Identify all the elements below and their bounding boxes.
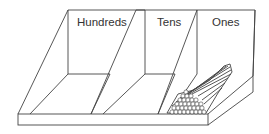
left-inner-edge [30,74,68,114]
bundle-of-sticks [167,64,232,114]
place-value-tray-diagram: Hundreds Tens Ones [0,0,269,134]
label-hundreds: Hundreds [77,16,127,28]
front-lip [18,114,208,125]
label-tens: Tens [157,16,182,28]
label-ones: Ones [212,16,240,28]
left-side-edge [18,10,68,114]
